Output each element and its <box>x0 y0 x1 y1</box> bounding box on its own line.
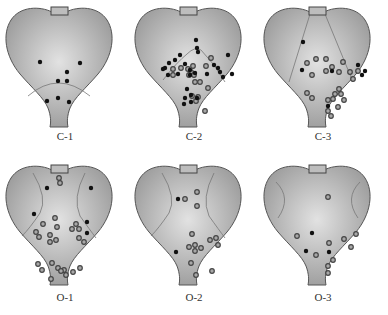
ring-marker <box>50 261 55 266</box>
solid-marker <box>182 102 186 106</box>
ring-marker <box>183 197 188 202</box>
solid-marker <box>189 93 193 97</box>
inlet-cap <box>51 165 68 173</box>
ring-marker <box>203 109 208 114</box>
ring-marker <box>77 236 82 241</box>
ring-marker <box>199 246 204 251</box>
ring-marker <box>326 98 331 103</box>
ring-marker <box>330 65 335 70</box>
solid-marker <box>167 61 171 65</box>
solid-marker <box>65 79 69 83</box>
solid-marker <box>183 96 187 100</box>
solid-marker <box>356 63 360 67</box>
inlet-cap <box>51 7 68 15</box>
label-o3: O-3 <box>258 291 388 303</box>
ring-marker <box>324 69 329 74</box>
ring-marker <box>179 66 184 71</box>
solid-marker <box>161 67 165 71</box>
ring-marker <box>331 97 336 102</box>
label-c2: C-2 <box>129 130 259 142</box>
ring-marker <box>57 176 62 181</box>
ring-marker <box>348 70 353 75</box>
solid-marker <box>166 73 170 77</box>
ring-marker <box>195 190 200 195</box>
solid-marker <box>67 100 71 104</box>
solid-marker <box>89 186 93 190</box>
solid-marker <box>85 220 89 224</box>
solid-marker <box>32 212 36 216</box>
solid-marker <box>195 46 199 50</box>
solid-marker <box>304 249 308 253</box>
solid-marker <box>56 96 60 100</box>
ring-marker <box>193 80 198 85</box>
ring-marker <box>34 230 39 235</box>
ring-marker <box>54 238 59 243</box>
ring-marker <box>295 234 300 239</box>
inlet-cap <box>180 7 197 15</box>
ring-marker <box>327 241 332 246</box>
ring-marker <box>305 91 310 96</box>
heart-outline <box>135 166 241 285</box>
solid-marker <box>212 63 216 67</box>
ring-marker <box>40 268 45 273</box>
solid-marker <box>188 68 192 72</box>
solid-marker <box>363 69 367 73</box>
ring-marker <box>48 233 53 238</box>
ring-marker <box>59 269 64 274</box>
ring-marker <box>55 225 60 230</box>
solid-marker <box>300 68 304 72</box>
ring-marker <box>193 249 198 254</box>
ring-marker <box>74 222 79 227</box>
ring-marker <box>204 64 209 69</box>
ring-marker <box>210 269 215 274</box>
label-c3: C-3 <box>258 130 388 142</box>
solid-marker <box>360 73 364 77</box>
ring-marker <box>195 204 200 209</box>
ring-marker <box>351 77 356 82</box>
solid-marker <box>178 53 182 57</box>
label-o1: O-1 <box>0 291 130 303</box>
ring-marker <box>58 181 63 186</box>
solid-marker <box>189 100 193 104</box>
ring-marker <box>187 245 192 250</box>
ring-marker <box>336 105 341 110</box>
ring-marker <box>193 243 198 248</box>
inlet-cap <box>180 165 197 173</box>
ring-marker <box>329 114 334 119</box>
solid-marker <box>194 38 198 42</box>
solid-marker <box>326 104 330 108</box>
solid-marker <box>176 72 180 76</box>
ring-marker <box>326 271 331 276</box>
ring-marker <box>78 266 83 271</box>
inlet-cap <box>309 165 326 173</box>
ring-marker <box>314 253 319 258</box>
ring-marker <box>326 195 331 200</box>
solid-marker <box>176 197 180 201</box>
ring-marker <box>209 56 214 61</box>
ring-marker <box>326 264 331 269</box>
solid-marker <box>216 66 220 70</box>
solid-marker <box>226 53 230 57</box>
solid-marker <box>230 72 234 76</box>
ring-marker <box>71 270 76 275</box>
ring-marker <box>171 67 176 72</box>
ring-marker <box>64 273 69 278</box>
solid-marker <box>65 70 69 74</box>
solid-marker <box>301 40 305 44</box>
ring-marker <box>198 80 203 85</box>
heart-outline <box>264 166 370 285</box>
ring-marker <box>171 73 176 78</box>
ring-marker <box>37 235 42 240</box>
solid-marker <box>56 79 60 83</box>
heart-outline <box>264 8 370 127</box>
ring-marker <box>354 232 359 237</box>
ring-marker <box>190 232 195 237</box>
ring-marker <box>326 109 331 114</box>
ring-marker <box>36 262 41 267</box>
ring-marker <box>349 245 354 250</box>
solid-marker <box>188 73 192 77</box>
ring-marker <box>194 273 199 278</box>
ring-marker <box>337 70 342 75</box>
solid-marker <box>218 70 222 74</box>
solid-marker <box>327 250 331 254</box>
